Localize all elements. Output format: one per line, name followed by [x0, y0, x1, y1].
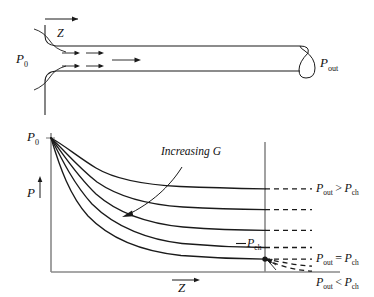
- inlet-streamline-lower: [34, 66, 66, 90]
- pipe-upper-wall: [45, 25, 300, 46]
- choking-pressure-label: Pch: [247, 237, 261, 252]
- pressure-curve-g2: [51, 138, 265, 210]
- x-axis-arrow-icon: [172, 278, 200, 283]
- increasing-g-annotation: Increasing G: [161, 146, 221, 158]
- right-label-pout-less: Pout < Pch: [316, 276, 359, 291]
- plot-y-axis-label: P: [27, 186, 35, 199]
- outlet-teardrop-icon: [299, 46, 315, 78]
- pipe-flow-schematic: [34, 17, 315, 115]
- plot-origin-pressure-label: P0: [27, 130, 39, 147]
- y-axis-arrow-icon: [38, 176, 43, 198]
- inlet-axial-arrow-icon: [45, 17, 78, 22]
- increasing-g-leader-arrow-icon: [122, 167, 182, 217]
- pressure-curve-g4: [51, 138, 265, 248]
- schematic-inlet-pressure-label: P0: [16, 52, 28, 69]
- schematic-outlet-pressure-label: Pout: [320, 56, 338, 73]
- flow-arrow-center: [112, 58, 141, 63]
- right-label-pout-greater: Pout > Pch: [316, 182, 359, 197]
- pipe-lower-wall: [45, 71, 300, 115]
- schematic-axial-coordinate-label: Z: [57, 27, 64, 39]
- flow-arrow-upper-2: [86, 51, 104, 55]
- flow-arrow-lower-2: [86, 64, 104, 68]
- right-label-pout-equal: Pout = Pch: [316, 252, 359, 267]
- flow-arrow-lower-1: [62, 64, 80, 68]
- pressure-curve-g5: [51, 138, 265, 259]
- plot-x-axis-label: Z: [178, 281, 185, 294]
